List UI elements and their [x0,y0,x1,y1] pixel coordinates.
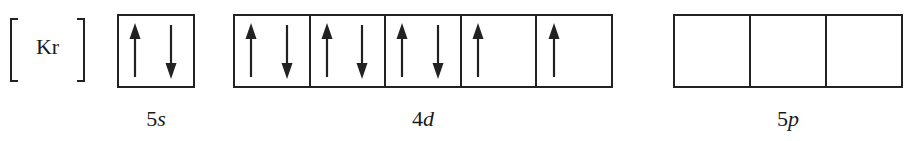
orbital-group-5s [117,14,195,88]
label-5p-l: p [788,106,799,131]
orbital-group-4d [233,14,613,88]
label-5p-n: 5 [777,106,788,131]
spin-down-arrow-icon [356,25,368,83]
spin-up-arrow-icon [321,23,333,81]
label-5s-l: s [157,106,166,131]
orbital-box-5p-1 [675,16,749,86]
orbital-group-5p [673,14,903,88]
orbital-box-5p-3 [825,16,901,86]
spin-down-arrow-icon [432,25,444,83]
orbital-box-5s-1 [119,16,193,86]
spin-down-arrow-icon [281,25,293,83]
orbital-box-4d-5 [535,16,611,86]
orbital-box-4d-3 [384,16,460,86]
orbital-box-4d-1 [235,16,309,86]
orbital-box-4d-4 [460,16,536,86]
spin-up-arrow-icon [472,23,484,81]
right-bracket [77,18,85,82]
spin-up-arrow-icon [396,23,408,81]
label-5s: 5s [117,106,195,132]
spin-up-arrow-icon [245,23,257,81]
label-4d-n: 4 [412,106,423,131]
spin-down-arrow-icon [165,25,177,83]
label-4d-l: d [423,106,434,131]
label-4d: 4d [233,106,613,132]
core-symbol: Kr [10,34,85,60]
label-5p: 5p [673,106,903,132]
orbital-box-4d-2 [309,16,385,86]
spin-up-arrow-icon [129,23,141,81]
spin-up-arrow-icon [548,23,560,81]
orbital-box-5p-2 [749,16,825,86]
label-5s-n: 5 [146,106,157,131]
noble-gas-core: Kr [10,18,85,78]
